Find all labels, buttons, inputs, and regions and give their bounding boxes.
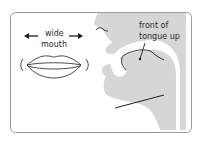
label-front-of: front of — [139, 21, 168, 30]
mouth-position-diagram: front of tongue up wide mouth — [0, 0, 197, 143]
tongue-point-marker — [139, 58, 141, 60]
label-wide: wide — [45, 29, 64, 38]
label-mouth: mouth — [41, 40, 67, 49]
label-tongue-up: tongue up — [139, 32, 180, 41]
